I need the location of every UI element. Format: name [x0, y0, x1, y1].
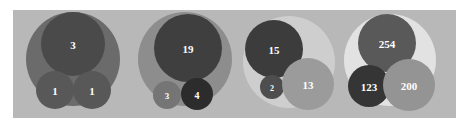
- child-node-200-3-2[interactable]: 200: [383, 59, 435, 111]
- child-node-19-1-0[interactable]: 19: [154, 14, 222, 82]
- child-label: 200: [401, 80, 418, 92]
- child-label: 3: [165, 91, 170, 101]
- child-node-4-1-2[interactable]: 4: [181, 78, 213, 110]
- circle-packing-chart: 311193415213254123200: [13, 10, 456, 118]
- child-node-3-0-0[interactable]: 3: [41, 12, 105, 76]
- child-node-13-2-2[interactable]: 13: [282, 58, 334, 110]
- child-label: 1: [52, 85, 58, 97]
- child-label: 123: [361, 81, 378, 93]
- figure-root: 311193415213254123200: [0, 0, 469, 128]
- child-node-3-1-1[interactable]: 3: [153, 81, 181, 109]
- child-node-2-2-1[interactable]: 2: [260, 75, 284, 99]
- plot-panel: 311193415213254123200: [13, 10, 456, 118]
- child-label: 15: [269, 44, 281, 56]
- child-label: 3: [70, 39, 76, 51]
- bubble-group-3: 15213: [243, 16, 335, 110]
- bubble-group-1: 311: [26, 12, 120, 109]
- child-label: 13: [303, 79, 315, 91]
- bubble-group-4: 254123200: [344, 14, 436, 111]
- child-label: 19: [183, 43, 195, 55]
- child-node-1-0-1[interactable]: 1: [36, 71, 74, 109]
- bubble-group-2: 1934: [138, 12, 232, 110]
- child-label: 2: [270, 84, 274, 93]
- child-node-1-0-2[interactable]: 1: [73, 71, 111, 109]
- child-label: 254: [379, 38, 396, 50]
- child-label: 4: [195, 90, 200, 101]
- child-label: 1: [89, 85, 95, 97]
